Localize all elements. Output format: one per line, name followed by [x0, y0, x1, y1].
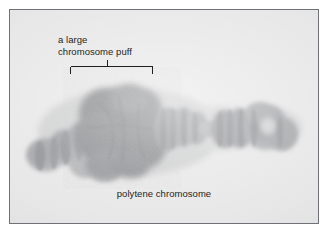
tip-pale-core [260, 117, 276, 135]
right-bands [217, 109, 244, 147]
figure-root: a large chromosome puff polytene chromos… [0, 0, 328, 233]
chromosome-puff [75, 84, 167, 178]
figure-caption: polytene chromosome [10, 188, 318, 199]
micrograph-plate: a large chromosome puff polytene chromos… [9, 9, 319, 224]
